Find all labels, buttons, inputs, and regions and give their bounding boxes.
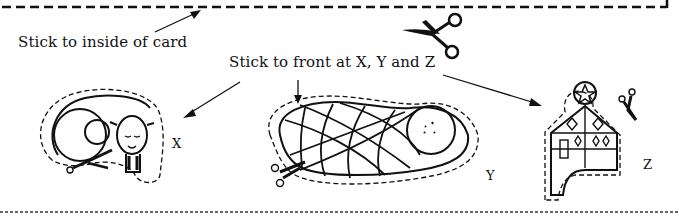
label-front: Stick to front at X, Y and Z xyxy=(229,53,435,71)
scissors-icon xyxy=(402,14,461,58)
marker-y: Y xyxy=(486,168,495,183)
house-icon xyxy=(545,82,636,200)
baby-icon xyxy=(269,96,478,187)
label-inside-card: Stick to inside of card xyxy=(18,33,187,51)
arrow-inside-card xyxy=(155,10,201,32)
arrow-to-z xyxy=(443,75,542,106)
marker-z: Z xyxy=(643,157,652,172)
arrow-to-x xyxy=(183,82,240,118)
small-scissors-icon xyxy=(619,89,636,120)
sheep-icon xyxy=(41,89,164,182)
top-cut-line xyxy=(2,0,667,8)
marker-x: X xyxy=(172,136,181,151)
